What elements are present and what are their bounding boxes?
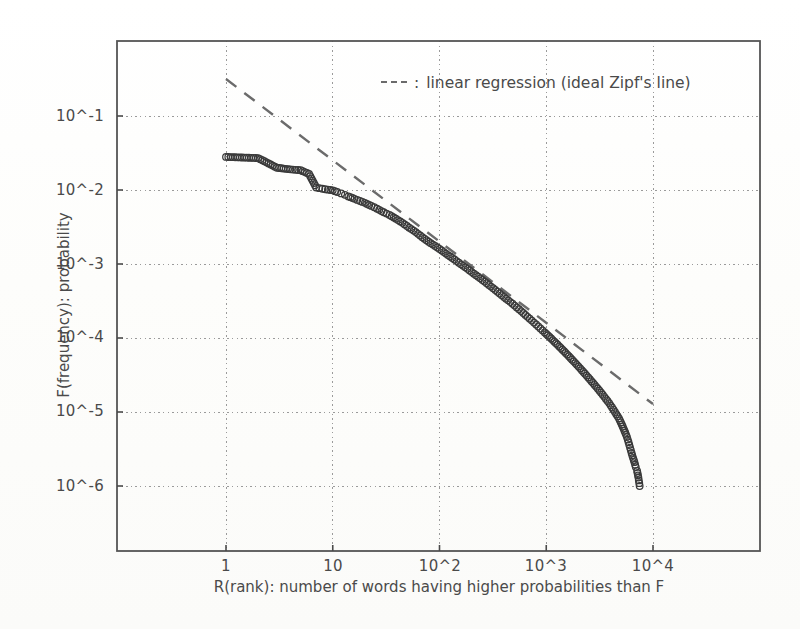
ytick-label-1: 10^-1 [56,107,104,125]
y-axis-label: F(frequency): probability [55,175,73,435]
xtick-label-10000: 10^4 [632,557,674,575]
legend-dash-marker [381,81,407,83]
x-axis-label: R(rank): number of words having higher p… [117,578,761,596]
plot-canvas [0,0,800,629]
data-point-series [223,154,643,490]
axes-frame [117,41,760,551]
xtick-label-1000: 10^3 [525,557,567,575]
legend-separator: : [414,74,419,92]
legend-label: linear regression (ideal Zipf's line) [426,74,690,92]
xtick-label-100: 10^2 [419,557,461,575]
ytick-label-6: 10^-6 [56,477,104,495]
legend: : linear regression (ideal Zipf's line) [381,74,691,92]
zipf-law-figure: 10^-1 10^-2 10^-3 10^-4 10^-5 10^-6 1 10… [0,0,800,629]
xtick-label-10: 10 [323,557,343,575]
grid-lines [117,41,760,551]
regression-line [226,79,653,404]
xtick-label-1: 1 [221,557,231,575]
